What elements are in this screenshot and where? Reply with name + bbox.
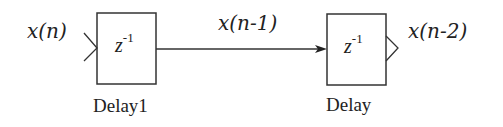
output-signal-label: x(n-2) xyxy=(408,19,467,43)
input-signal-label: x(n) xyxy=(27,19,67,43)
delay1-operator: z-1 xyxy=(115,32,134,57)
delay-block-name: Delay xyxy=(326,94,371,116)
delay-operator: z-1 xyxy=(344,33,363,58)
delay1-block-name: Delay1 xyxy=(93,95,148,117)
operator-exponent: -1 xyxy=(352,31,363,46)
operator-base: z xyxy=(115,34,123,56)
operator-exponent: -1 xyxy=(123,30,134,45)
output-port-icon xyxy=(386,36,398,61)
operator-base: z xyxy=(344,35,352,57)
middle-signal-label: x(n-1) xyxy=(218,11,277,35)
input-port-icon xyxy=(84,33,97,61)
